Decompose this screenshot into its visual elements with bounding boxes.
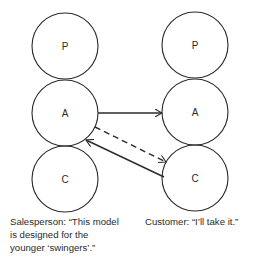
salesperson-adult-label: A xyxy=(62,108,69,119)
customer-caption-line: Customer: “I’ll take it.” xyxy=(145,215,238,228)
child-to-adult-arrow xyxy=(86,140,164,177)
salesperson-parent-label: P xyxy=(62,41,69,52)
customer-adult-label: A xyxy=(192,107,199,118)
customer-parent-label: P xyxy=(192,40,199,51)
salesperson-caption-line: younger ‘swingers’.” xyxy=(10,241,119,254)
adult-to-child-dashed-arrow xyxy=(95,127,166,162)
salesperson-ego-states: P A C xyxy=(32,13,98,212)
customer-child-label: C xyxy=(191,173,198,184)
salesperson-child-label: C xyxy=(61,174,68,185)
customer-caption: Customer: “I’ll take it.” xyxy=(145,215,238,228)
salesperson-caption: Salesperson: “This model is designed for… xyxy=(10,215,119,254)
salesperson-caption-line: is designed for the xyxy=(10,228,119,241)
salesperson-caption-line: Salesperson: “This model xyxy=(10,215,119,228)
customer-ego-states: P A C xyxy=(162,12,228,211)
